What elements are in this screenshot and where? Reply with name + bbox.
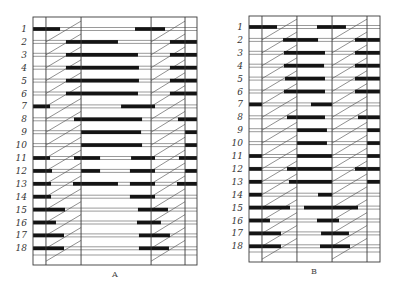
hatch-line <box>332 238 367 259</box>
row-bar <box>185 130 197 134</box>
row-bar <box>33 234 64 238</box>
caption-a: A <box>111 270 118 279</box>
row-bar <box>355 167 380 171</box>
row-label: 4 <box>20 63 27 73</box>
row-bar <box>287 167 332 171</box>
row-bar <box>249 103 262 107</box>
row-bar <box>121 105 155 109</box>
diagram-a: 123456789101112131415161718 <box>16 17 197 265</box>
row-bar <box>320 245 350 249</box>
row-bar <box>33 182 51 186</box>
hatch-line <box>332 161 367 182</box>
hatch-line <box>332 135 367 156</box>
row-bar <box>33 208 65 212</box>
row-label: 11 <box>232 151 243 161</box>
hatch-line <box>151 176 185 197</box>
hatch-line <box>332 148 367 169</box>
hatch-line <box>332 122 367 143</box>
hatch-line <box>262 45 297 66</box>
row-bar <box>33 27 60 31</box>
hatch-line <box>151 86 185 107</box>
row-bar <box>170 40 197 44</box>
row-label: 13 <box>232 177 244 187</box>
row-bar <box>285 77 325 81</box>
row-label: 5 <box>237 74 243 84</box>
hatch-line <box>332 213 367 234</box>
hatch-line <box>332 71 367 92</box>
row-label: 6 <box>21 89 27 99</box>
row-bar <box>81 130 141 134</box>
hatch-line <box>46 99 81 120</box>
hatch-line <box>151 99 185 120</box>
row-bar <box>297 154 332 158</box>
row-bar <box>33 195 51 199</box>
hatch-line <box>151 73 185 94</box>
row-bar <box>355 64 380 68</box>
row-bar <box>81 169 100 173</box>
row-bar <box>66 53 138 57</box>
row-bar <box>170 53 197 57</box>
hatch-line <box>46 215 81 236</box>
row-bar <box>33 156 50 160</box>
hatch-line <box>151 47 185 68</box>
row-label: 11 <box>16 153 27 163</box>
row-bar <box>283 38 318 42</box>
row-label: 14 <box>232 190 244 200</box>
hatch-line <box>46 21 81 42</box>
row-label: 17 <box>16 230 28 240</box>
row-label: 1 <box>237 22 243 32</box>
hatch-line <box>151 228 185 249</box>
row-label: 10 <box>232 138 244 148</box>
row-label: 3 <box>237 48 243 58</box>
hatch-line <box>262 122 297 143</box>
hatch-line <box>46 240 81 261</box>
hatch-line <box>46 202 81 223</box>
row-bar <box>185 169 197 173</box>
diagram-canvas: 123456789101112131415161718 123456789101… <box>0 0 396 284</box>
hatch-line <box>262 148 297 169</box>
row-bar <box>284 51 325 55</box>
row-bar <box>367 180 380 184</box>
row-bar <box>33 247 64 251</box>
hatch-line <box>332 200 367 221</box>
row-bar <box>135 27 165 31</box>
hatch-line <box>262 174 297 195</box>
hatch-line <box>46 137 81 158</box>
hatch-line <box>151 34 185 55</box>
row-bar <box>249 193 262 197</box>
hatch-line <box>46 34 81 55</box>
row-bar <box>355 51 380 55</box>
row-bar <box>367 128 380 132</box>
row-bar <box>304 206 358 210</box>
row-bar <box>66 79 139 83</box>
row-label: 15 <box>232 203 244 213</box>
hatch-line <box>151 215 185 236</box>
hatch-line <box>262 187 297 208</box>
row-bar <box>249 219 270 223</box>
hatch-line <box>262 161 297 182</box>
row-label: 1 <box>21 24 27 34</box>
hatch-line <box>151 202 185 223</box>
row-bar <box>311 103 332 107</box>
row-bar <box>33 169 52 173</box>
hatch-line <box>332 58 367 79</box>
row-label: 9 <box>21 127 27 137</box>
hatch-line <box>46 111 81 132</box>
hatch-line <box>151 21 185 42</box>
hatch-line <box>332 109 367 130</box>
row-bar <box>317 219 339 223</box>
row-bar <box>358 116 380 120</box>
hatch-line <box>151 137 185 158</box>
row-bar <box>355 90 380 94</box>
hatch-line <box>262 135 297 156</box>
row-bar <box>284 64 324 68</box>
hatch-line <box>332 32 367 53</box>
row-bar <box>139 234 170 238</box>
row-bar <box>66 66 139 70</box>
hatch-line <box>151 60 185 81</box>
row-label: 10 <box>16 140 28 150</box>
hatch-line <box>151 163 185 184</box>
hatch-line <box>262 19 297 40</box>
row-label: 18 <box>232 241 244 251</box>
row-label: 5 <box>21 76 27 86</box>
